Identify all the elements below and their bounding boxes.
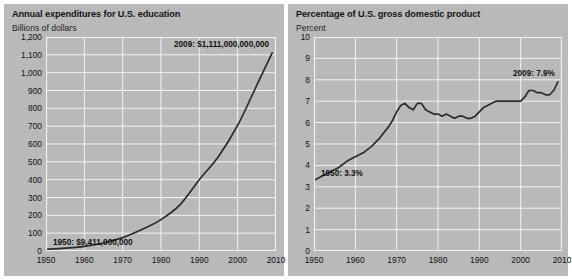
y-axis-tick-label: 1,100 xyxy=(21,50,42,60)
annotation-end-point: 2009: $1,111,000,000,000 xyxy=(174,40,269,49)
y-axis-tick-label: 700 xyxy=(28,121,42,131)
x-axis-tick-label: 2010 xyxy=(267,255,286,265)
x-axis-tick-label: 1990 xyxy=(190,255,209,265)
x-axis-tick-label: 2000 xyxy=(511,255,530,265)
y-axis-tick-label: 100 xyxy=(28,228,42,238)
y-axis-tick-label: 800 xyxy=(28,103,42,113)
x-axis-tick-label: 1950 xyxy=(37,255,56,265)
x-axis-tick-label: 1990 xyxy=(470,255,489,265)
y-axis-tick-label: 300 xyxy=(28,193,42,203)
chart-panel-expenditures: Annual expenditures for U.S. education B… xyxy=(4,4,284,276)
y-axis-tick-label: 10 xyxy=(301,32,310,42)
chart-title-left: Annual expenditures for U.S. education xyxy=(12,9,180,19)
y-axis-tick-label: 600 xyxy=(28,139,42,149)
x-axis-tick-label: 1970 xyxy=(387,255,406,265)
y-axis-tick-label: 4 xyxy=(305,160,310,170)
y-axis-tick-label: 500 xyxy=(28,157,42,167)
y-axis-tick-label: 9 xyxy=(305,53,310,63)
chart-panel-gdp-percentage: Percentage of U.S. gross domestic produc… xyxy=(288,4,568,276)
y-axis-tick-label: 1 xyxy=(305,225,310,235)
y-axis-tick-label: 2 xyxy=(305,203,310,213)
annotation-start-point: 1950: 3.3% xyxy=(321,169,363,178)
x-axis-tick-label: 2000 xyxy=(228,255,247,265)
x-axis-tick-label: 1950 xyxy=(305,255,324,265)
y-axis-tick-label: 900 xyxy=(28,86,42,96)
x-axis-tick-label: 1960 xyxy=(346,255,365,265)
annotation-end-point: 2009: 7.9% xyxy=(513,69,555,78)
y-axis-tick-label: 8 xyxy=(305,75,310,85)
y-axis-tick-label: 1,200 xyxy=(21,32,42,42)
y-axis-tick-label: 200 xyxy=(28,210,42,220)
x-axis-tick-label: 1980 xyxy=(152,255,171,265)
data-series-line xyxy=(46,53,272,249)
annotation-start-point: 1950: $9,411,000,000 xyxy=(53,238,133,247)
figure-two-panel-education-spending: Annual expenditures for U.S. education B… xyxy=(0,0,572,280)
x-axis-tick-label: 1970 xyxy=(113,255,132,265)
y-axis-tick-label: 6 xyxy=(305,118,310,128)
plot-area-left xyxy=(46,37,276,251)
x-axis-tick-label: 1960 xyxy=(75,255,94,265)
x-axis-tick-label: 2010 xyxy=(553,255,572,265)
y-axis-tick-label: 3 xyxy=(305,182,310,192)
x-axis-tick-label: 1980 xyxy=(429,255,448,265)
chart-title-right: Percentage of U.S. gross domestic produc… xyxy=(296,9,480,19)
y-axis-tick-label: 7 xyxy=(305,96,310,106)
y-axis-tick-label: 400 xyxy=(28,175,42,185)
plot-svg-left xyxy=(46,37,276,251)
y-axis-tick-label: 1,000 xyxy=(21,68,42,78)
y-axis-tick-label: 5 xyxy=(305,139,310,149)
